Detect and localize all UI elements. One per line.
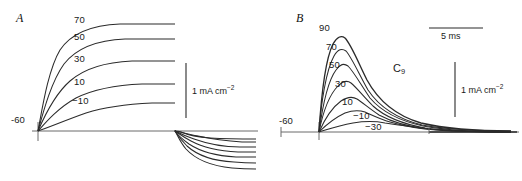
trace-70 [38,24,175,131]
panel-a-step-label-70: 70 [74,14,85,25]
panel-a-step-label-10: 10 [74,76,85,87]
panel-b-step-label-50: 50 [329,59,340,70]
panel-a-step-label-30: 30 [74,53,85,64]
panel-b-current-scale-value: 1 mA cm [461,85,496,95]
trace-neg10 [38,103,175,131]
panel-a: A [0,0,261,181]
panel-a-tail-currents [175,130,256,169]
panel-b-holding-label: -60 [279,115,293,126]
panel-a-step-label-neg10: −10 [72,95,89,106]
panel-b-step-label-neg30: −30 [365,121,382,132]
panel-b-step-label-10: 10 [342,96,353,107]
panel-a-current-scale-value: 1 mA cm [192,86,227,96]
figure-container: A [0,0,522,181]
panel-a-holding-label: -60 [11,114,25,125]
panel-b-step-label-70: 70 [326,41,337,52]
panel-a-activation-curves [38,24,175,131]
panel-b-drug-subscript: 9 [401,67,405,76]
panel-b-step-label-90: 90 [319,22,330,33]
panel-b-time-scale-text: 5 ms [441,31,461,41]
panel-b: B 90 70 [261,0,522,181]
panel-a-current-scale-exponent: −2 [227,84,234,91]
panel-b-step-label-neg10: −10 [353,110,370,121]
panel-b-step-label-30: 30 [335,78,346,89]
panel-b-current-scale-text: 1 mA cm−2 [461,83,503,95]
panel-b-drug-label: C9 [393,62,405,74]
trace-30 [38,61,175,131]
tail-30 [175,131,256,157]
panel-a-current-scale-text: 1 mA cm−2 [192,84,234,96]
panel-b-current-scale-exponent: −2 [496,83,503,90]
panel-b-drug-name: C [393,62,401,74]
panel-a-step-label-50: 50 [74,31,85,42]
